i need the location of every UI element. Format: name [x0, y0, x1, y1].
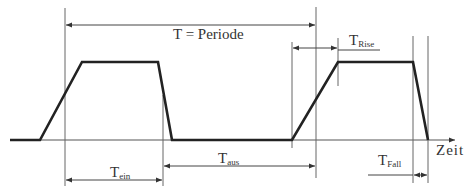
fall-label: TFall [378, 152, 402, 169]
period-label: T = Periode [173, 26, 244, 42]
time-axis-label: Zeit [436, 142, 464, 158]
pwm-waveform [10, 62, 428, 140]
guide-lines [65, 7, 428, 186]
pwm-timing-diagram: T = Periode TRise TFall Tein Taus Zeit [0, 0, 468, 190]
rise-label: TRise [349, 32, 374, 49]
off-time-label: Taus [218, 150, 240, 167]
on-time-label: Tein [110, 164, 131, 181]
